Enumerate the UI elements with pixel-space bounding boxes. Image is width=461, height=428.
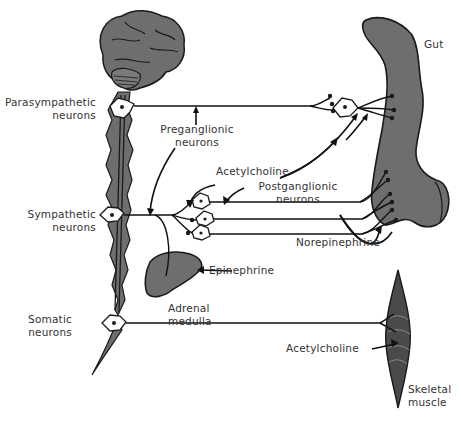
- skeletal-label-line2: muscle: [408, 396, 451, 409]
- adrenal-medulla-label: Adrenal medulla: [168, 302, 212, 328]
- somatic-label-line2: neurons: [4, 326, 72, 339]
- preganglionic-label-line1: Preganglionic: [152, 123, 242, 136]
- adrenal-label-line1: Adrenal: [168, 302, 212, 315]
- brain-icon: [100, 11, 184, 90]
- preganglionic-label-line2: neurons: [152, 136, 242, 149]
- sympathetic-label-line2: neurons: [4, 221, 96, 234]
- spinal-cord-icon: [92, 92, 133, 375]
- preganglionic-neurons-label: Preganglionic neurons: [152, 123, 242, 149]
- sympathetic-label-line1: Sympathetic: [4, 208, 96, 221]
- epinephrine-label: Epinephrine: [209, 264, 274, 277]
- somatic-neurons-label: Somatic neurons: [4, 313, 72, 339]
- gut-label: Gut: [424, 38, 444, 51]
- parasympathetic-label-line2: neurons: [4, 109, 96, 122]
- muscle-icon: [386, 270, 411, 408]
- nervous-system-diagram: Parasympathetic neurons Preganglionic ne…: [0, 0, 461, 428]
- acetylcholine-label-top: Acetylcholine: [216, 165, 289, 178]
- skeletal-muscle-label: Skeletal muscle: [408, 383, 451, 409]
- adrenal-label-line2: medulla: [168, 315, 212, 328]
- parasympathetic-label-line1: Parasympathetic: [4, 96, 96, 109]
- adrenal-gland-icon: [145, 252, 201, 297]
- parasympathetic-neurons-label: Parasympathetic neurons: [4, 96, 96, 122]
- acetylcholine-label-bottom: Acetylcholine: [286, 342, 359, 355]
- somatic-label-line1: Somatic: [4, 313, 72, 326]
- postganglionic-label-line1: Postganglionic: [250, 180, 346, 193]
- sympathetic-neurons-label: Sympathetic neurons: [4, 208, 96, 234]
- postganglionic-label-line2: neurons: [250, 193, 346, 206]
- postganglionic-neurons-label: Postganglionic neurons: [250, 180, 346, 206]
- norepinephrine-label: Norepinephrine: [296, 236, 380, 249]
- skeletal-label-line1: Skeletal: [408, 383, 451, 396]
